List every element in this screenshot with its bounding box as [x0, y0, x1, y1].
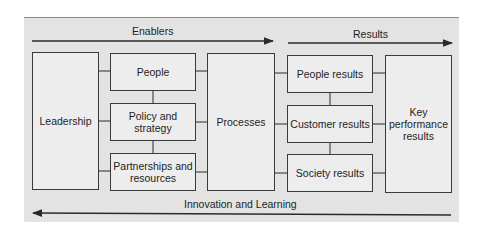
innovation-arrow	[33, 213, 451, 215]
innovation-label: Innovation and Learning	[184, 198, 297, 210]
processes-box: Processes	[207, 53, 275, 191]
results-label: Results	[353, 28, 388, 40]
customer-results-box: Customer results	[287, 105, 373, 143]
leadership-box: Leadership	[32, 52, 99, 190]
people-box: People	[110, 53, 196, 91]
partnerships-resources-box: Partnerships and resources	[110, 153, 196, 191]
society-results-box: Society results	[287, 154, 373, 192]
key-performance-results-box: Key performance results	[385, 55, 452, 193]
people-results-box: People results	[287, 55, 373, 93]
enablers-label: Enablers	[132, 25, 173, 37]
policy-strategy-box: Policy and strategy	[110, 103, 196, 141]
